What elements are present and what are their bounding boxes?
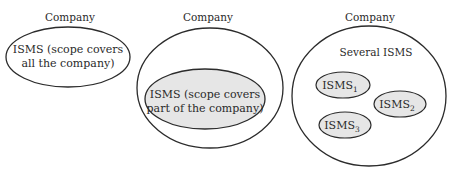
panel-several-isms: Company Several ISMS ISMS1 ISMS2 ISMS3 bbox=[292, 11, 446, 166]
several-isms-label: Several ISMS bbox=[340, 46, 413, 58]
isms-2: ISMS2 bbox=[374, 91, 426, 117]
isms-label-line1: ISMS (scope covers bbox=[150, 88, 261, 101]
isms-label-line1: ISMS (scope covers bbox=[13, 43, 124, 56]
isms-scope-diagram: Company ISMS (scope covers all the compa… bbox=[0, 0, 452, 173]
isms-label-line2: all the company) bbox=[21, 57, 114, 70]
panel-part-company: Company ISMS (scope covers part of the c… bbox=[137, 11, 283, 148]
isms-3: ISMS3 bbox=[319, 112, 371, 138]
isms-2-label: ISMS2 bbox=[379, 98, 415, 113]
isms-label-line2: part of the company) bbox=[147, 102, 264, 115]
company-label: Company bbox=[345, 11, 395, 23]
isms-1-label: ISMS1 bbox=[322, 79, 357, 94]
company-label: Company bbox=[45, 11, 95, 23]
isms-1: ISMS1 bbox=[316, 72, 370, 98]
isms-3-label: ISMS3 bbox=[324, 119, 360, 134]
panel-whole-company: Company ISMS (scope covers all the compa… bbox=[6, 11, 130, 87]
company-label: Company bbox=[183, 11, 233, 23]
